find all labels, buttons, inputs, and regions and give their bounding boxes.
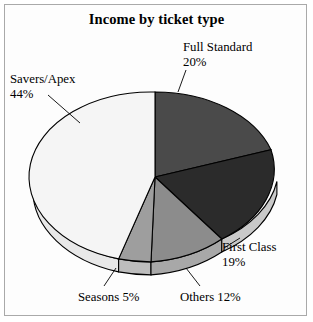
pie-chart-graphic — [0, 0, 313, 322]
leader-line-seasons — [104, 268, 116, 286]
pie-label-savers-apex: Savers/Apex 44% — [10, 72, 75, 102]
pie-label-full-standard-name: Full Standard — [183, 40, 252, 55]
pie-label-first-class-name: First Class — [222, 240, 276, 255]
pie-label-full-standard: Full Standard 20% — [183, 40, 252, 70]
pie-label-others: Others 12% — [180, 290, 241, 305]
pie-label-first-class: First Class 19% — [222, 240, 276, 270]
pie-label-seasons: Seasons 5% — [78, 290, 140, 305]
pie-chart-screenshot: Income by ticket type Full Standard 20% — [0, 0, 313, 322]
pie-label-savers-apex-value: 44% — [10, 87, 75, 102]
leader-line-others — [186, 268, 200, 286]
leader-line-full-standard — [178, 70, 186, 92]
pie-label-full-standard-value: 20% — [183, 55, 252, 70]
pie-label-savers-apex-name: Savers/Apex — [10, 72, 75, 87]
pie-label-first-class-value: 19% — [222, 255, 276, 270]
